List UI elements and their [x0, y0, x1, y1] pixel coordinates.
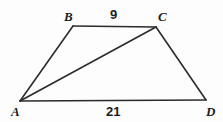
- edge-bc: [73, 26, 156, 27]
- edge-ad: [20, 100, 206, 101]
- edge-ab: [20, 26, 73, 101]
- vertex-label-b: B: [64, 10, 73, 23]
- geometry-figure: A B C D 9 21: [0, 0, 223, 122]
- side-length-ad: 21: [106, 105, 120, 118]
- edge-ac-diagonal: [20, 27, 156, 101]
- edge-cd: [156, 27, 206, 100]
- vertex-label-c: C: [158, 10, 167, 23]
- vertex-label-d: D: [206, 105, 215, 118]
- vertex-label-a: A: [11, 105, 20, 118]
- side-length-bc: 9: [110, 8, 117, 21]
